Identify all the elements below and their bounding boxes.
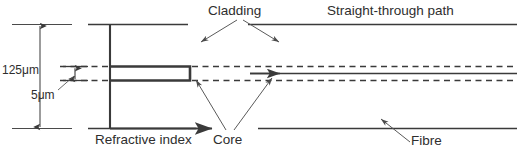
cladding-boundary-lines <box>88 25 517 129</box>
cladding-leader-arrows <box>201 20 279 42</box>
cladding-leader-right <box>243 20 279 42</box>
dim-5-leader-line <box>58 76 74 90</box>
core-leader-arrows <box>196 78 272 130</box>
core-leader-left <box>196 80 226 130</box>
optical-fibre-diagram: Cladding Straight-through path Refractiv… <box>0 0 517 156</box>
label-core: Core <box>213 133 242 147</box>
step-index-profile-curve <box>110 67 190 81</box>
core-diameter-dimension <box>58 67 88 91</box>
label-refractive-index: Refractive index <box>95 133 192 147</box>
label-fibre: Fibre <box>411 134 442 148</box>
core-leader-right <box>234 78 272 130</box>
label-straight-through-path: Straight-through path <box>327 4 454 18</box>
refractive-index-profile-axes <box>110 24 212 129</box>
label-core-diameter: 5μm <box>31 89 55 101</box>
fibre-leader-arrow <box>381 119 410 142</box>
label-cladding-diameter: 125μm <box>2 64 39 76</box>
label-cladding: Cladding <box>208 4 261 18</box>
cladding-leader-left <box>201 20 237 42</box>
